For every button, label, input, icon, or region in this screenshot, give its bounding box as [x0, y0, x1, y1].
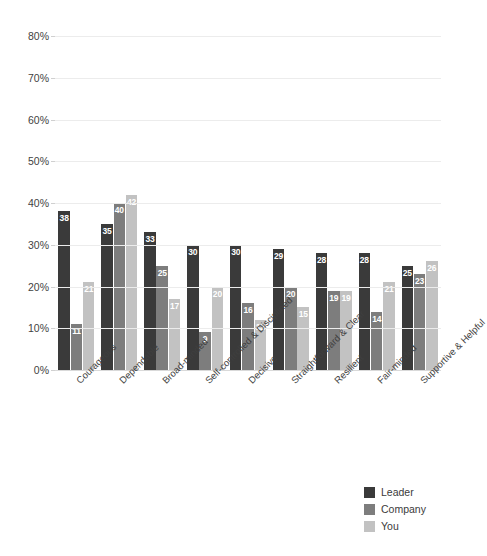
gridline	[55, 245, 441, 246]
bar-value-label: 28	[359, 255, 371, 265]
bar-value-label: 19	[340, 293, 352, 303]
bar-value-label: 30	[187, 247, 199, 257]
bar-value-label: 40	[114, 205, 126, 215]
bar-value-label: 21	[383, 284, 395, 294]
bar-value-label: 16	[242, 305, 254, 315]
y-axis-tick-label: 10%	[6, 322, 49, 334]
gridline	[55, 287, 441, 288]
legend-item[interactable]: You	[364, 518, 450, 534]
bar-value-label: 33	[144, 234, 156, 244]
y-axis-tick-mark	[51, 78, 55, 79]
bar-value-label: 21	[83, 284, 95, 294]
gridline	[55, 120, 441, 121]
bar-value-label: 28	[316, 255, 328, 265]
y-axis-tick-mark	[51, 36, 55, 37]
y-axis-tick-label: 50%	[6, 155, 49, 167]
legend-item[interactable]: Leader	[364, 484, 450, 500]
bar-company: 11	[71, 324, 83, 370]
legend-label: You	[381, 520, 399, 532]
y-axis-tick-label: 0%	[6, 364, 49, 376]
y-axis-tick-mark	[51, 370, 55, 371]
gridline	[55, 328, 441, 329]
bar-you: 26	[426, 261, 438, 370]
y-axis-tick-mark	[51, 287, 55, 288]
bar-value-label: 26	[426, 263, 438, 273]
bar-value-label: 29	[273, 251, 285, 261]
bar-you: 21	[383, 282, 395, 370]
gridline	[55, 161, 441, 162]
y-axis-tick-label: 80%	[6, 30, 49, 42]
bar-value-label: 25	[156, 268, 168, 278]
chart-legend: LeaderCompanyYou	[364, 484, 450, 535]
y-axis-tick-mark	[51, 120, 55, 121]
bar-company: 23	[414, 274, 426, 370]
gridline	[55, 78, 441, 79]
legend-swatch-icon	[364, 521, 375, 532]
bar-value-label: 38	[58, 213, 70, 223]
y-axis-tick-label: 20%	[6, 281, 49, 293]
bar-value-label: 25	[402, 268, 414, 278]
bar-leader: 38	[58, 211, 70, 370]
y-axis-tick-label: 60%	[6, 114, 49, 126]
legend-label: Leader	[381, 486, 414, 498]
y-axis-tick-label: 30%	[6, 239, 49, 251]
gridline	[55, 36, 441, 37]
bar-value-label: 35	[101, 226, 113, 236]
category-axis: CourageousDependableBroad-mindedSelf-con…	[55, 374, 441, 474]
gridline	[55, 203, 441, 204]
bar-company: 14	[371, 312, 383, 370]
bar-value-label: 15	[297, 309, 309, 319]
y-axis-tick-mark	[51, 245, 55, 246]
y-axis-tick-label: 40%	[6, 197, 49, 209]
bar-value-label: 19	[328, 293, 340, 303]
bar-value-label: 17	[169, 301, 181, 311]
legend-swatch-icon	[364, 504, 375, 515]
y-axis-tick-mark	[51, 161, 55, 162]
legend-item[interactable]: Company	[364, 501, 450, 517]
bar-company: 25	[156, 266, 168, 370]
bar-value-label: 30	[230, 247, 242, 257]
bar-value-label: 23	[414, 276, 426, 286]
bar-value-label: 20	[212, 289, 224, 299]
y-axis-tick-mark	[51, 203, 55, 204]
legend-swatch-icon	[364, 487, 375, 498]
bar-you: 42	[126, 195, 138, 370]
bar-value-label: 14	[371, 314, 383, 324]
bar-you: 21	[83, 282, 95, 370]
legend-label: Company	[381, 503, 426, 515]
y-axis-tick-mark	[51, 328, 55, 329]
y-axis-tick-label: 70%	[6, 72, 49, 84]
bar-value-label: 42	[126, 197, 138, 207]
